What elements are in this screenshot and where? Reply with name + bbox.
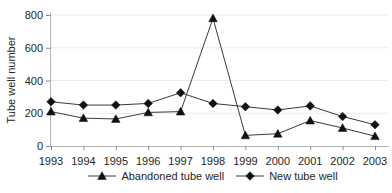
y-tick-label: 800 <box>25 9 43 21</box>
data-point-diamond <box>241 102 250 111</box>
plot-area: 0200400600800199319941995199619971998199… <box>0 0 392 193</box>
y-tick-label: 600 <box>25 42 43 54</box>
y-tick-label: 0 <box>37 140 43 152</box>
x-tick-label: 1994 <box>71 155 95 167</box>
legend-item-new-tube-well: New tube well <box>236 170 337 182</box>
x-tick-label: 1993 <box>39 155 63 167</box>
legend: Abandoned tube well New tube well <box>0 170 392 182</box>
data-point-diamond <box>176 88 185 97</box>
x-tick-label: 1999 <box>233 155 257 167</box>
legend-item-abandoned-tube-well: Abandoned tube well <box>88 170 224 182</box>
x-tick-label: 2002 <box>330 155 354 167</box>
x-tick-label: 1998 <box>201 155 225 167</box>
x-tick-label: 1996 <box>136 155 160 167</box>
data-point-diamond <box>306 102 315 111</box>
data-point-diamond <box>79 101 88 110</box>
data-point-diamond <box>144 99 153 108</box>
y-tick-label: 200 <box>25 107 43 119</box>
x-tick-label: 2003 <box>363 155 387 167</box>
legend-diamond-glyph <box>246 172 255 181</box>
data-point-diamond <box>209 99 218 108</box>
legend-label-abandoned-tube-well: Abandoned tube well <box>121 170 224 182</box>
data-point-triangle <box>47 107 56 115</box>
x-tick-label: 2000 <box>266 155 290 167</box>
line-chart-figure: Tube well number 02004006008001993199419… <box>0 0 392 193</box>
triangle-series-marker-icon <box>88 170 116 182</box>
x-tick-label: 1997 <box>168 155 192 167</box>
data-point-triangle <box>306 116 315 124</box>
x-tick-label: 1995 <box>104 155 128 167</box>
data-point-triangle <box>176 107 185 115</box>
y-tick-label: 400 <box>25 75 43 87</box>
data-point-diamond <box>112 101 121 110</box>
series-line-1 <box>51 93 375 125</box>
x-tick-label: 2001 <box>298 155 322 167</box>
data-point-triangle <box>274 129 283 137</box>
data-point-diamond <box>371 120 380 129</box>
legend-label-new-tube-well: New tube well <box>269 170 337 182</box>
data-point-diamond <box>47 97 56 106</box>
series-line-0 <box>51 18 375 136</box>
diamond-series-marker-icon <box>236 170 264 182</box>
